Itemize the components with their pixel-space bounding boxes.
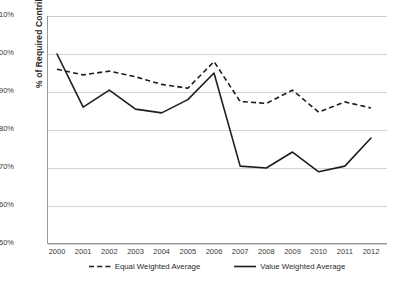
legend-item-value-weighted-average[interactable]: Value Weighted Average (234, 262, 345, 271)
gridline (48, 168, 387, 169)
chart-container: % of Required Contributions 110%100%90%8… (0, 0, 409, 284)
x-tick-label: 2002 (101, 247, 118, 256)
gridline (48, 92, 387, 93)
legend-label: Equal Weighted Average (115, 262, 201, 271)
x-tick-label: 2003 (127, 247, 144, 256)
x-tick-label: 2008 (258, 247, 275, 256)
chart-legend: Equal Weighted Average Value Weighted Av… (47, 262, 387, 271)
dashed-line-icon (89, 263, 111, 270)
gridline (48, 206, 387, 207)
y-axis-title: % of Required Contributions (34, 0, 44, 124)
x-tick-label: 2007 (232, 247, 249, 256)
x-tick-label: 2004 (153, 247, 170, 256)
legend-label: Value Weighted Average (260, 262, 345, 271)
plot-area (47, 16, 387, 244)
x-tick-label: 2005 (179, 247, 196, 256)
x-tick-label: 2010 (310, 247, 327, 256)
x-tick-label: 2012 (363, 247, 380, 256)
x-tick-label: 2011 (337, 247, 353, 256)
gridline (48, 244, 387, 245)
x-tick-label: 2001 (75, 247, 92, 256)
x-tick-label: 2009 (284, 247, 301, 256)
legend-item-equal-weighted-average[interactable]: Equal Weighted Average (89, 262, 201, 271)
x-tick-label: 2000 (49, 247, 66, 256)
solid-line-icon (234, 263, 256, 270)
x-tick-label: 2006 (206, 247, 223, 256)
gridline (48, 54, 387, 55)
gridline (48, 16, 387, 17)
gridline (48, 130, 387, 131)
